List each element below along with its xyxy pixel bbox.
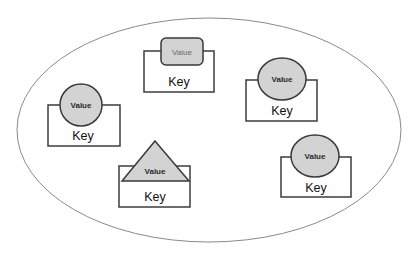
value-label: Value xyxy=(71,101,92,110)
value-label: Value xyxy=(305,152,326,161)
value-label: Value xyxy=(172,48,192,57)
entry-bottom-right: Value Key xyxy=(281,135,351,197)
entry-bottom-center: Value Key xyxy=(119,141,190,207)
key-label: Key xyxy=(305,181,327,195)
key-label: Key xyxy=(271,104,293,118)
value-label: Value xyxy=(145,167,166,176)
key-label: Key xyxy=(168,75,190,89)
entry-left: Value Key xyxy=(48,84,120,146)
entry-right-top: Value Key xyxy=(246,58,317,121)
entry-top-center: Value Key xyxy=(144,38,214,92)
value-label: Value xyxy=(272,75,293,84)
key-label: Key xyxy=(72,129,94,143)
key-value-diagram: Value Key Value Key Value Key Value Key … xyxy=(0,0,418,258)
key-label: Key xyxy=(144,190,166,204)
